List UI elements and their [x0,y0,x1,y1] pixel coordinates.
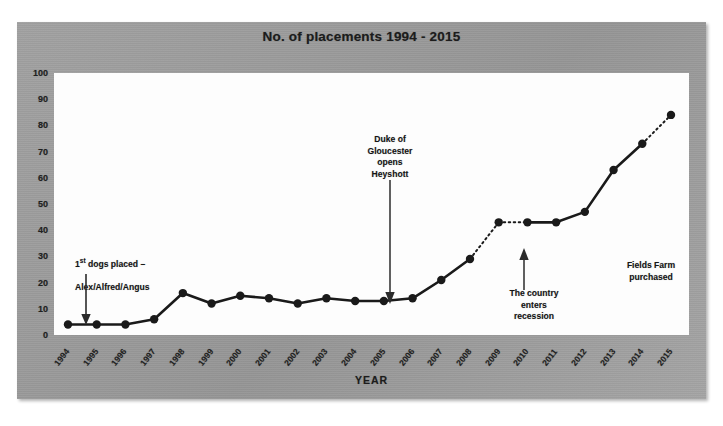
line-segment-2003-2004 [326,298,355,301]
y-axis-tick-0: 0 [18,330,48,340]
data-point-2009: 2009: 43 [495,218,503,226]
x-axis-tick-2002: 2002 [282,347,302,368]
data-point-2001: 2001: 14 [265,294,273,302]
x-axis-tick-2010: 2010 [511,347,531,368]
x-axis-tick-1994: 1994 [52,347,72,368]
y-axis-tick-20: 20 [18,278,48,288]
data-point-1996: 1996: 4 [121,320,129,328]
data-point-2003: 2003: 14 [322,294,330,302]
data-point-2002: 2002: 12 [294,299,302,307]
line-segment-2002-2003 [298,298,327,303]
line-segment-2008-2009 [470,222,499,259]
x-axis-tick-1998: 1998 [167,347,187,368]
data-point-1997: 1997: 6 [150,315,158,323]
data-point-1995: 1995: 4 [93,320,101,328]
line-segment-2012-2013 [585,170,614,212]
plot-area: 1994: 41995: 41996: 41997: 61998: 161999… [54,73,689,335]
x-axis-tick-2003: 2003 [310,347,330,368]
line-segment-2013-2014 [614,144,643,170]
annotation-arrow-down-duke [383,180,397,305]
y-axis-tick-50: 50 [18,199,48,209]
x-axis-tick-2005: 2005 [368,347,388,368]
annotation-country-enters-recession: The country enters recession [487,288,581,323]
data-point-2012: 2012: 47 [581,208,589,216]
annotation-duke-of-gloucester: Duke of Gloucester opens Heyshott [347,134,433,180]
x-axis-tick-2007: 2007 [425,347,445,368]
annotation-arrow-down-first-dogs [79,274,93,326]
x-axis-tick-2015: 2015 [655,347,675,368]
y-axis-tick-80: 80 [18,120,48,130]
line-segment-1997-1998 [154,293,183,319]
line-segment-1998-1999 [183,293,212,303]
annotation-first-dogs-placed: 1st dogs placed – Alex/Alfred/Angus [75,244,195,294]
x-axis-tick-2012: 2012 [569,347,589,368]
data-point-1999: 1999: 12 [207,299,215,307]
data-point-2004: 2004: 13 [351,297,359,305]
x-axis-tick-2000: 2000 [224,347,244,368]
line-segment-2007-2008 [441,259,470,280]
data-point-2007: 2007: 21 [437,276,445,284]
x-axis-tick-1997: 1997 [138,347,158,368]
y-axis-tick-70: 70 [18,147,48,157]
x-axis-tick-1995: 1995 [81,347,101,368]
x-axis-tick-2004: 2004 [339,347,359,368]
x-axis-tick-1999: 1999 [196,347,216,368]
data-point-2010: 2010: 43 [523,218,531,226]
line-segment-2014-2015 [642,115,671,144]
x-axis-tick-2001: 2001 [253,347,273,368]
y-axis-tick-100: 100 [18,68,48,78]
line-segment-2006-2007 [413,280,442,298]
annotation-first-dogs-line1: 1st dogs placed – [75,259,145,269]
data-point-2000: 2000: 15 [236,292,244,300]
x-axis-tick-2008: 2008 [454,347,474,368]
data-point-2015: 2015: 84 [667,111,675,119]
x-axis-tick-1996: 1996 [109,347,129,368]
y-axis-tick-30: 30 [18,251,48,261]
data-point-2013: 2013: 63 [609,166,617,174]
y-axis-tick-60: 60 [18,173,48,183]
line-segment-2011-2012 [556,212,585,222]
chart-panel: No. of placements 1994 - 2015 0102030405… [17,22,706,399]
annotation-arrow-up-recession [517,248,531,290]
x-axis-tick-2009: 2009 [483,347,503,368]
x-axis-title: YEAR [54,374,689,386]
y-axis: 0102030405060708090100 [17,73,52,335]
data-point-2014: 2014: 73 [638,140,646,148]
y-axis-tick-10: 10 [18,304,48,314]
line-segment-1999-2000 [212,296,241,304]
line-segment-2001-2002 [269,298,298,303]
page-root: No. of placements 1994 - 2015 0102030405… [0,0,723,426]
data-point-2011: 2011: 43 [552,218,560,226]
x-axis-tick-2006: 2006 [397,347,417,368]
x-axis-tick-2014: 2014 [626,347,646,368]
line-segment-1996-1997 [125,319,154,324]
line-series-svg: 1994: 41995: 41996: 41997: 61998: 161999… [54,73,689,335]
annotation-fields-farm-purchased: Fields Farm purchased [603,260,699,283]
data-point-2006: 2006: 14 [408,294,416,302]
line-segment-2000-2001 [240,296,269,299]
y-axis-tick-40: 40 [18,225,48,235]
x-axis-tick-2011: 2011 [540,347,559,368]
data-point-2008: 2008: 29 [466,255,474,263]
data-point-1994: 1994: 4 [64,320,72,328]
x-axis-tick-2013: 2013 [598,347,618,368]
y-axis-tick-90: 90 [18,94,48,104]
chart-title: No. of placements 1994 - 2015 [17,29,706,44]
